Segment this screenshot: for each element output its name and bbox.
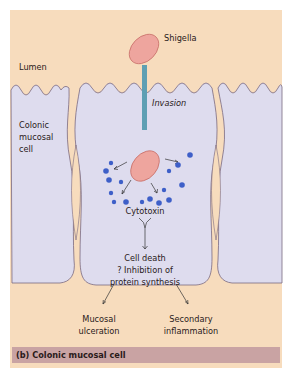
invasion-label: Invasion xyxy=(152,98,186,108)
cell-label-line1: Colonic xyxy=(19,120,49,130)
figure-caption: (b) Colonic mucosal cell xyxy=(16,350,126,360)
outcome-left-line1: Mucosal xyxy=(82,314,115,324)
lumen-label: Lumen xyxy=(19,62,47,72)
outcome-right-line1: Secondary xyxy=(169,314,213,324)
shigella-pathogenesis-diagram: Lumen Shigella Invasion Colonic mucosal … xyxy=(0,0,288,373)
effect-label-line1: Cell death xyxy=(124,253,166,263)
cell-right xyxy=(218,83,282,283)
effect-label-line2: ? Inhibition of xyxy=(117,265,174,275)
outcome-right-line2: inflammation xyxy=(164,326,218,336)
cell-label-line3: cell xyxy=(19,144,33,154)
cell-left xyxy=(11,85,74,283)
outcome-left-line2: ulceration xyxy=(78,326,119,336)
effect-label-line3: protein synthesis xyxy=(110,277,180,287)
cytotoxin-label: Cytotoxin xyxy=(125,206,164,216)
invasion-path xyxy=(142,65,147,130)
shigella-label: Shigella xyxy=(164,33,196,43)
cell-label-line2: mucosal xyxy=(19,132,53,142)
